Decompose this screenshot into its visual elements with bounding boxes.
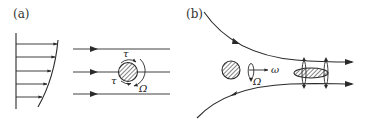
lower-streamline	[197, 84, 352, 118]
flow-arrow-icon	[90, 91, 98, 97]
ring-arrow-icon	[302, 85, 306, 89]
figure-canvas: (a) τ τ Ω	[0, 0, 367, 127]
panel-a: (a) τ τ Ω	[13, 7, 170, 109]
panel-a-label: (a)	[13, 7, 30, 21]
flow-arrow-icon	[232, 38, 240, 44]
ring-arrow-icon	[324, 57, 328, 61]
spin-label-b: Ω	[252, 76, 261, 87]
upper-streamline	[204, 12, 352, 62]
flow-arrow-icon	[90, 46, 98, 52]
flow-arrow-icon	[90, 69, 98, 75]
panel-b: (b) ω Ω	[186, 7, 354, 118]
torque-label-top: τ	[123, 48, 129, 59]
torque-label-bottom: τ	[111, 75, 117, 86]
sphere-b	[222, 61, 240, 79]
ring-arrow-icon	[324, 85, 328, 89]
ellipsoid-particle	[294, 68, 328, 78]
velocity-profile-arrows	[16, 44, 57, 97]
flow-arrow-icon	[230, 91, 237, 96]
rotation-label-a: Ω	[138, 83, 147, 94]
omega-label: ω	[271, 64, 279, 75]
flow-arrow-icon	[345, 59, 354, 65]
sphere-a	[119, 63, 138, 82]
panel-b-label: (b)	[186, 7, 203, 21]
flow-arrow-icon	[345, 81, 354, 87]
ring-arrow-icon	[302, 57, 306, 61]
